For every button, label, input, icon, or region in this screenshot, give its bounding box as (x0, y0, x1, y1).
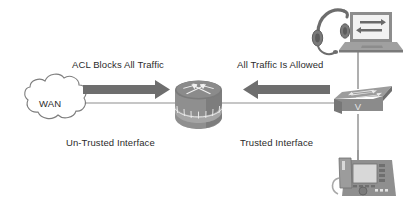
label-trusted-interface: Trusted Interface (240, 138, 313, 148)
wan-cloud-shape (25, 74, 86, 118)
label-all-traffic-is-allowed: All Traffic Is Allowed (237, 60, 324, 70)
arrow-all-traffic-allowed (243, 80, 330, 99)
label-wan-cloud: WAN (39, 99, 61, 109)
label-acl-blocks-all-traffic: ACL Blocks All Traffic (72, 60, 164, 70)
switch-icon: V (334, 86, 392, 114)
network-diagram: V (0, 0, 405, 204)
ip-phone-icon (332, 150, 396, 196)
label-untrusted-interface: Un-Trusted Interface (66, 138, 155, 148)
arrow-acl-blocks-all-traffic (83, 80, 170, 99)
switch-front-marking: V (355, 101, 362, 112)
router-icon (175, 81, 222, 130)
